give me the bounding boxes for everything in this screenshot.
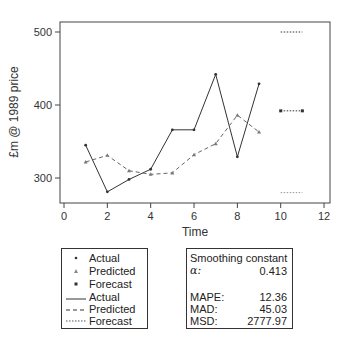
legend-item-forecast-line: Forecast	[62, 315, 147, 327]
stats-heading: Smoothing constant	[190, 252, 287, 264]
data-point	[301, 109, 304, 112]
y-tick-label: 400	[34, 99, 52, 111]
data-point	[258, 82, 261, 85]
x-tick-label: 2	[104, 210, 110, 222]
dashed-line-icon	[66, 303, 86, 315]
triangle-marker-icon	[66, 265, 86, 277]
mad-value: 45.03	[259, 303, 287, 315]
legend-item-forecast-point: Forecast	[62, 278, 147, 290]
x-axis: 024681012	[61, 203, 330, 222]
legend-item-predicted-point: Predicted	[62, 265, 147, 277]
mape-value: 12.36	[259, 291, 287, 303]
x-tick-label: 6	[191, 210, 197, 222]
msd-row: MSD: 2777.97	[190, 315, 287, 327]
data-point	[236, 155, 239, 158]
alpha-value: 0.413	[259, 265, 287, 277]
plot-area	[60, 22, 330, 203]
x-tick-label: 4	[148, 210, 154, 222]
legend-symbols-box: Actual Predicted Forecast Actual Predict…	[61, 248, 148, 329]
x-tick-label: 8	[234, 210, 240, 222]
y-axis-label: £m @ 1989 price	[7, 66, 21, 158]
data-point	[171, 128, 174, 131]
data-point	[128, 178, 131, 181]
msd-value: 2777.97	[247, 315, 287, 327]
data-point	[214, 73, 217, 76]
smoothing-stats-box: Smoothing constant α: 0.413 MAPE: 12.36 …	[186, 248, 293, 329]
y-tick-label: 300	[34, 172, 52, 184]
data-point	[149, 168, 152, 171]
x-tick-label: 0	[61, 210, 67, 222]
alpha-row: α: 0.413	[190, 265, 287, 277]
data-point	[193, 128, 196, 131]
legend-item-actual-point: Actual	[62, 252, 147, 264]
alpha-label: α:	[190, 265, 201, 277]
msd-label: MSD:	[190, 315, 218, 327]
solid-line-icon	[66, 291, 86, 303]
x-tick-label: 10	[275, 210, 287, 222]
data-point	[106, 190, 109, 193]
y-tick-label: 500	[34, 26, 52, 38]
mape-row: MAPE: 12.36	[190, 291, 287, 303]
legend-item-actual-line: Actual	[62, 291, 147, 303]
data-point	[84, 144, 87, 147]
mape-label: MAPE:	[190, 291, 224, 303]
legend-item-predicted-line: Predicted	[62, 303, 147, 315]
square-marker-icon	[66, 278, 86, 290]
mad-label: MAD:	[190, 303, 218, 315]
dot-marker-icon	[66, 252, 86, 264]
x-axis-label: Time	[182, 225, 209, 239]
y-axis: 300400500	[34, 26, 60, 184]
data-point	[279, 109, 282, 112]
dotted-line-icon	[66, 315, 86, 327]
mad-row: MAD: 45.03	[190, 303, 287, 315]
x-tick-label: 12	[318, 210, 330, 222]
